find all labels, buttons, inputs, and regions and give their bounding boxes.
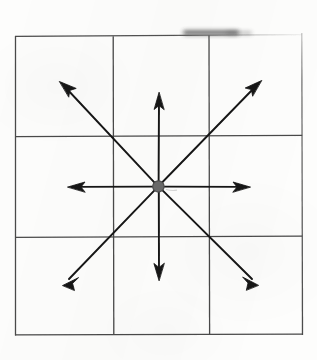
- center-dot: [153, 181, 164, 192]
- grid-line-vertical-1: [113, 36, 114, 335]
- top-edge-smudge-tail: [226, 32, 252, 35]
- grid-line-vertical-2: [209, 36, 210, 335]
- grid-edge-bottom: [15, 334, 303, 335]
- figure-root: Eight-direction vector diagram A hand-dr…: [0, 0, 317, 360]
- grid-edge-right: [302, 33, 303, 335]
- vector-diagram-canvas: [0, 0, 317, 360]
